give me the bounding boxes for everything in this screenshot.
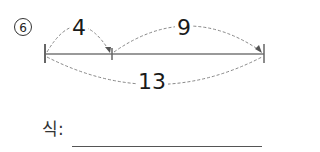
expression-answer-line[interactable] xyxy=(72,146,262,147)
segment-a-label: 4 xyxy=(70,17,88,39)
total-label: 13 xyxy=(136,71,168,93)
arrowhead-icon xyxy=(105,47,111,53)
arrowhead-icon xyxy=(255,45,262,53)
expression-label: 식: xyxy=(42,115,64,140)
segment-b-label: 9 xyxy=(175,17,193,39)
